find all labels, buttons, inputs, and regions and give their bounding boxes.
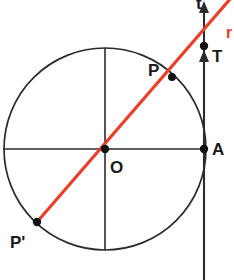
secant-line-r xyxy=(37,0,231,222)
geometry-figure: P T A O P' t r xyxy=(0,0,234,280)
label-O: O xyxy=(110,158,123,177)
label-tangent-t: t xyxy=(196,0,202,13)
point-Pprime-dot xyxy=(33,218,41,226)
label-A: A xyxy=(212,140,224,159)
label-P: P xyxy=(148,61,159,80)
label-secant-r: r xyxy=(226,24,232,41)
label-T: T xyxy=(212,47,223,66)
point-T-dot xyxy=(200,42,208,50)
point-A-dot xyxy=(200,145,208,153)
tangent-mid-arrow-icon xyxy=(199,50,209,62)
label-P-prime: P' xyxy=(10,233,25,252)
point-P-dot xyxy=(168,73,176,81)
point-O-dot xyxy=(101,145,109,153)
figure-canvas: P T A O P' t r xyxy=(0,0,234,280)
